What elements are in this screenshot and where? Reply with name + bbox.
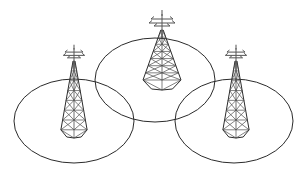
diagram-canvas <box>0 0 308 172</box>
cellular-coverage-diagram <box>0 0 308 172</box>
